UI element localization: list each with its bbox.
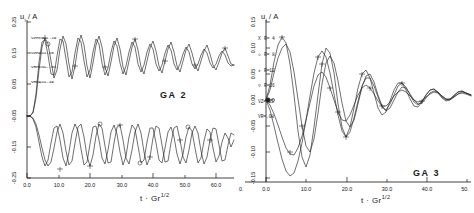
plot-svg-ga3: 0.15 0.10 0.05 0.00 -0.05 -0.10 -0.15 0.… <box>237 0 474 213</box>
svg-text:0.15: 0.15 <box>250 17 256 28</box>
svg-text:0.05: 0.05 <box>11 79 17 90</box>
svg-text:10.0: 10.0 <box>301 186 312 192</box>
svg-text:30.0: 30.0 <box>117 182 128 188</box>
curve-r4-ga3 <box>266 37 471 167</box>
svg-text:0.: 0. <box>239 186 244 192</box>
svg-text:40.0: 40.0 <box>148 182 159 188</box>
curve-r12-ga3 <box>266 72 471 155</box>
x-ticks-ga3: 0.0 10.0 20.0 30.0 40.0 50. 0. <box>239 177 469 192</box>
svg-text:20.0: 20.0 <box>85 182 96 188</box>
curve-lower-a-ga2 <box>27 116 234 166</box>
curve-r16-ga3 <box>266 51 471 176</box>
svg-text:20.0: 20.0 <box>342 186 353 192</box>
y-ticks-ga2: 0.25 0.15 0.05 -0.05 -0.15 -0.25 <box>11 17 31 184</box>
svg-text:-0.10: -0.10 <box>250 146 256 158</box>
svg-text:0.0: 0.0 <box>23 182 31 188</box>
svg-text:-0.25: -0.25 <box>11 172 17 184</box>
svg-text:-0.15: -0.15 <box>11 141 17 153</box>
svg-text:-0.15: -0.15 <box>250 172 256 184</box>
svg-text:0.0: 0.0 <box>262 186 270 192</box>
svg-text:60.0: 60.0 <box>211 182 222 188</box>
chart-panel-ga2: ui / A VZMIN=-.29 VZMAX=.26 VRMIN=-.51 V… <box>0 0 237 213</box>
svg-text:0.05: 0.05 <box>250 69 256 80</box>
figure-root: ui / A VZMIN=-.29 VZMAX=.26 VRMIN=-.51 V… <box>0 0 474 213</box>
svg-text:0.15: 0.15 <box>11 48 17 59</box>
svg-text:40.0: 40.0 <box>422 186 433 192</box>
curve-upper-b-ga2 <box>27 38 234 116</box>
data-markers-ga3 <box>266 35 425 155</box>
curve-r8-ga3 <box>266 44 471 152</box>
plot-svg-ga2: 0.25 0.15 0.05 -0.05 -0.15 -0.25 0.0 10.… <box>0 0 237 213</box>
svg-text:-0.05: -0.05 <box>250 120 256 132</box>
svg-text:-0.05: -0.05 <box>11 110 17 122</box>
svg-text:50.: 50. <box>461 186 469 192</box>
svg-text:0.10: 0.10 <box>250 43 256 54</box>
svg-text:50.0: 50.0 <box>180 182 191 188</box>
svg-text:30.0: 30.0 <box>382 186 393 192</box>
data-markers-ga2 <box>42 35 228 172</box>
x-ticks-ga2: 0.0 10.0 20.0 30.0 40.0 50.0 60.0 <box>23 173 221 188</box>
svg-text:0.00: 0.00 <box>250 95 256 106</box>
chart-panel-ga3: ui / A XR= 4 ◇R= 8 ✳R=12 ▽R=16 VZ=.25 VR… <box>237 0 474 213</box>
svg-text:0.25: 0.25 <box>11 17 17 28</box>
svg-text:10.0: 10.0 <box>54 182 65 188</box>
